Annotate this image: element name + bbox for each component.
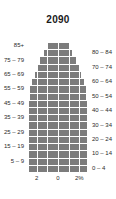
age-label-5-9: 5 – 9 (11, 158, 24, 165)
gridline-vertical (90, 42, 91, 172)
bar-right (58, 107, 87, 114)
bar-right (58, 85, 86, 92)
x-tick-label: 2 (35, 174, 38, 182)
bar-left (30, 85, 58, 92)
age-label-45-49: 45 – 49 (4, 100, 24, 107)
bar-right (58, 158, 87, 165)
age-label-50-54: 50 – 54 (92, 93, 112, 100)
x-axis-ticks: 202% (26, 174, 90, 184)
bar-right (58, 64, 79, 71)
bar-right (58, 49, 72, 56)
bar-left (29, 150, 58, 157)
age-label-20-24: 20 – 24 (92, 136, 112, 143)
bar-left (32, 78, 58, 85)
pyramid-row (26, 121, 90, 128)
pyramid-row (26, 78, 90, 85)
pyramid-row (26, 71, 90, 78)
age-label-55-59: 55 – 59 (4, 85, 24, 92)
bar-left (29, 165, 58, 172)
gridline-horizontal (26, 172, 90, 173)
pyramid-row (26, 114, 90, 121)
population-pyramid-chart: 2090 0 – 45 – 910 – 1415 – 1920 – 2425 –… (0, 0, 116, 199)
bar-left (40, 56, 58, 63)
bars-container (26, 42, 90, 172)
age-label-40-44: 40 – 44 (92, 107, 112, 114)
bar-left (29, 121, 58, 128)
bar-right (58, 100, 87, 107)
age-label-70-74: 70 – 74 (92, 64, 112, 71)
pyramid-row (26, 56, 90, 63)
age-label-65-69: 65 – 69 (4, 71, 24, 78)
bar-left (35, 71, 58, 78)
age-label-60-64: 60 – 64 (92, 78, 112, 85)
bar-left (29, 158, 58, 165)
plot-area (26, 42, 90, 172)
bar-right (58, 121, 87, 128)
pyramid-row (26, 165, 90, 172)
bar-right (58, 78, 84, 85)
bar-right (58, 56, 76, 63)
age-label-35-39: 35 – 39 (4, 114, 24, 121)
bar-right (58, 93, 86, 100)
pyramid-row (26, 85, 90, 92)
pyramid-row (26, 100, 90, 107)
age-label-25-29: 25 – 29 (4, 129, 24, 136)
pyramid-row (26, 64, 90, 71)
x-tick-label: 0 (56, 174, 59, 182)
age-label-10-14: 10 – 14 (92, 150, 112, 157)
bar-left (29, 107, 58, 114)
age-label-75-79: 75 – 79 (4, 57, 24, 64)
age-label-80-84: 80 – 84 (92, 49, 112, 56)
bar-right (58, 143, 87, 150)
pyramid-row (26, 93, 90, 100)
age-label-30-34: 30 – 34 (92, 122, 112, 129)
bar-right (58, 136, 87, 143)
bar-left (29, 129, 58, 136)
bar-left (37, 64, 58, 71)
age-label-85+: 85+ (14, 42, 24, 49)
bar-left (29, 100, 58, 107)
bar-left (47, 42, 58, 49)
x-tick-label: 2% (75, 174, 84, 182)
pyramid-row (26, 143, 90, 150)
bar-left (29, 136, 58, 143)
bar-right (58, 150, 87, 157)
pyramid-row (26, 136, 90, 143)
age-label-0-4: 0 – 4 (92, 165, 105, 172)
age-label-15-19: 15 – 19 (4, 143, 24, 150)
bar-right (58, 129, 87, 136)
bar-left (29, 114, 58, 121)
bar-left (44, 49, 58, 56)
chart-title: 2090 (0, 14, 116, 26)
pyramid-row (26, 49, 90, 56)
bar-right (58, 165, 87, 172)
bar-left (30, 93, 58, 100)
bar-right (58, 71, 81, 78)
pyramid-row (26, 107, 90, 114)
bar-left (29, 143, 58, 150)
pyramid-row (26, 129, 90, 136)
pyramid-row (26, 150, 90, 157)
pyramid-row (26, 158, 90, 165)
bar-right (58, 114, 87, 121)
pyramid-row (26, 42, 90, 49)
bar-right (58, 42, 69, 49)
